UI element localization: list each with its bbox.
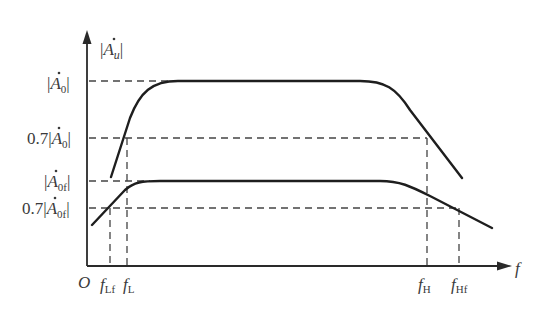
y-axis-title: |Au| bbox=[100, 38, 123, 62]
svg-text:0.7|A0|: 0.7|A0| bbox=[27, 129, 71, 150]
y-tick-A0: |A0| bbox=[47, 72, 70, 95]
x-tick-fL: fL bbox=[123, 275, 135, 295]
y-tick-07A0f: 0.7|A0f| bbox=[22, 197, 70, 220]
svg-text:0.7|A0f|: 0.7|A0f| bbox=[22, 199, 70, 220]
svg-text:|A0f|: |A0f| bbox=[44, 172, 70, 193]
closed-loop-curve bbox=[92, 181, 492, 228]
svg-text:|Au|: |Au| bbox=[100, 40, 123, 62]
x-tick-fLf: fLf bbox=[100, 275, 115, 295]
origin-label: O bbox=[78, 273, 90, 292]
y-tick-A0f: |A0f| bbox=[44, 170, 70, 193]
x-axis-title: f bbox=[515, 259, 522, 278]
open-loop-curve bbox=[111, 81, 462, 178]
svg-text:|A0|: |A0| bbox=[47, 74, 70, 95]
x-axis-arrow-icon bbox=[497, 262, 512, 271]
dot-icon bbox=[113, 38, 116, 41]
frequency-response-diagram: |Au| |A0| 0.7|A0| |A0f| 0.7|A0f| O fLf f… bbox=[0, 0, 541, 319]
x-tick-fH: fH bbox=[418, 275, 431, 295]
x-tick-fHf: fHf bbox=[451, 275, 468, 295]
guide-lines bbox=[89, 81, 459, 265]
y-tick-07A0: 0.7|A0| bbox=[27, 127, 71, 150]
axes bbox=[83, 30, 513, 271]
y-axis-arrow-icon bbox=[83, 30, 92, 44]
